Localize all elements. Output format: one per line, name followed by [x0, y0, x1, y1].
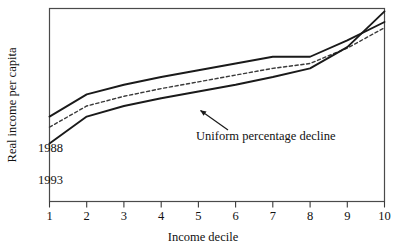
- annotation-uniform-percentage-decline: Uniform percentage decline: [196, 129, 336, 143]
- tick-label-3: 3: [121, 209, 127, 223]
- tick-label-9: 9: [344, 209, 350, 223]
- tick-label-7: 7: [270, 209, 276, 223]
- tick-label-1: 1: [46, 209, 52, 223]
- chart-figure: 1 2 3 4 5 6 7 8 9 10 Income decile Real …: [0, 0, 406, 248]
- y-axis-title: Real income per capita: [5, 47, 19, 162]
- tick-label-4: 4: [158, 209, 165, 223]
- tick-label-2: 2: [84, 209, 90, 223]
- tick-label-5: 5: [195, 209, 201, 223]
- chart-canvas: 1 2 3 4 5 6 7 8 9 10 Income decile Real …: [0, 0, 406, 248]
- tick-label-10: 10: [378, 209, 391, 223]
- x-axis-title: Income decile: [168, 230, 239, 244]
- tick-label-8: 8: [307, 209, 313, 223]
- series-label-1993: 1993: [38, 173, 63, 187]
- series-label-1988: 1988: [38, 141, 63, 155]
- tick-label-6: 6: [232, 209, 238, 223]
